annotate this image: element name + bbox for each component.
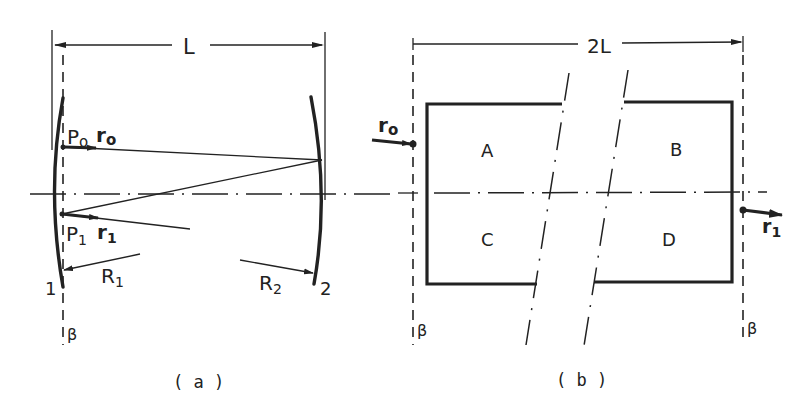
- dimension-2L: 2L: [413, 34, 743, 58]
- region-label-b: B: [670, 139, 682, 160]
- mirror-2: [311, 97, 321, 284]
- region-label-a: A: [481, 140, 494, 161]
- radius-2-label: R2: [259, 271, 282, 297]
- ray-r1-label: r1: [97, 220, 117, 246]
- reference-plane-beta-label-a: β: [67, 325, 77, 344]
- optical-axis-b-main: [434, 192, 767, 193]
- input-ray-label: ro: [378, 113, 398, 139]
- mirror-1: [55, 98, 64, 287]
- resonator-diagram: L Po ro P1 r1 R1 R2: [0, 0, 806, 406]
- point-p1-label: P1: [66, 222, 87, 248]
- mirror-1-label: 1: [45, 278, 56, 299]
- break-line-left: [526, 73, 569, 345]
- panel-a: L Po ro P1 r1 R1 R2: [30, 30, 398, 392]
- input-ray-arrow: [372, 140, 411, 144]
- point-p0-label: Po: [67, 125, 88, 151]
- region-label-c: C: [481, 229, 494, 250]
- region-label-d: D: [662, 229, 676, 250]
- dimension-L: L: [52, 30, 325, 200]
- mirror-2-label: 2: [320, 278, 331, 299]
- radius-1-label: R1: [101, 264, 124, 290]
- output-ray-label: r1: [762, 215, 781, 240]
- caption-a: ( a ): [173, 372, 224, 392]
- reference-plane-beta-label-right: β: [747, 319, 757, 338]
- system-block: [427, 102, 732, 284]
- caption-b: ( b ): [556, 370, 607, 390]
- panel-b: 2L ro r1 A B C D β β ( b ): [372, 34, 782, 390]
- break-line-right: [583, 70, 628, 352]
- reference-plane-beta-label-left: β: [417, 321, 427, 340]
- dimension-label-L: L: [183, 35, 195, 59]
- radius-2-arrow: [240, 260, 313, 273]
- dimension-label-2L: 2L: [587, 34, 612, 58]
- ray-path: [60, 145, 323, 230]
- ray-r0-label: ro: [96, 123, 116, 149]
